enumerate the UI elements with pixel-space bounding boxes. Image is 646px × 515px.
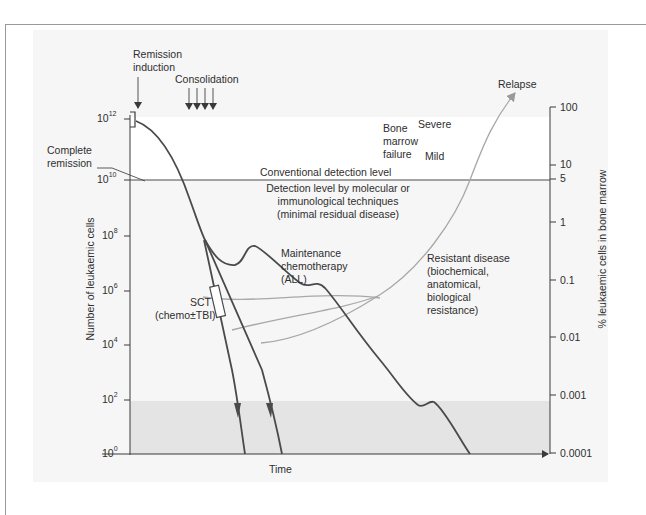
molecular-detection-label: Detection level by molecular or immunolo… bbox=[253, 182, 423, 221]
left-tick-1e8: 108 bbox=[102, 228, 118, 241]
consolidation-arrows-icon bbox=[189, 88, 213, 109]
conventional-detection-label: Conventional detection level bbox=[260, 166, 391, 179]
right-tick-0.01: 0.01 bbox=[560, 331, 580, 343]
left-tick-1e4: 104 bbox=[102, 337, 118, 350]
right-axis-ticks bbox=[550, 107, 556, 453]
right-tick-5: 5 bbox=[560, 172, 566, 184]
left-tick-1e10: 1010 bbox=[97, 172, 116, 185]
maintenance-label: Maintenance chemotherapy (ALL) bbox=[281, 247, 348, 286]
left-tick-1e12: 1012 bbox=[97, 111, 116, 124]
right-tick-100: 100 bbox=[560, 101, 578, 113]
right-axis-label: % leukaemic cells in bone marrow bbox=[596, 169, 608, 329]
relapse-label: Relapse bbox=[498, 78, 537, 91]
sct-label: SCT (chemo±TBI) bbox=[155, 296, 211, 322]
complete-remission-label: Complete remission bbox=[47, 144, 92, 170]
left-tick-1e2: 102 bbox=[102, 392, 118, 405]
right-tick-0.0001: 0.0001 bbox=[560, 447, 592, 459]
bone-marrow-failure-label: Bone marrow failure bbox=[383, 122, 418, 161]
mild-label: Mild bbox=[425, 150, 444, 163]
left-tick-1e0: 100 bbox=[102, 446, 118, 459]
remission-induction-label: Remission induction bbox=[133, 48, 182, 74]
consolidation-label: Consolidation bbox=[175, 73, 239, 86]
shaded-band bbox=[130, 401, 550, 454]
right-tick-0.1: 0.1 bbox=[560, 274, 575, 286]
right-tick-0.001: 0.001 bbox=[560, 389, 586, 401]
right-tick-10: 10 bbox=[560, 158, 572, 170]
severe-label: Severe bbox=[418, 118, 451, 131]
x-axis-label: Time bbox=[269, 463, 292, 476]
left-tick-1e6: 106 bbox=[102, 283, 118, 296]
right-tick-1: 1 bbox=[560, 216, 566, 228]
resistant-disease-label: Resistant disease (biochemical, anatomic… bbox=[427, 252, 510, 317]
left-axis-label: Number of leukaemic cells bbox=[84, 214, 96, 344]
left-axis-ticks bbox=[124, 119, 130, 400]
